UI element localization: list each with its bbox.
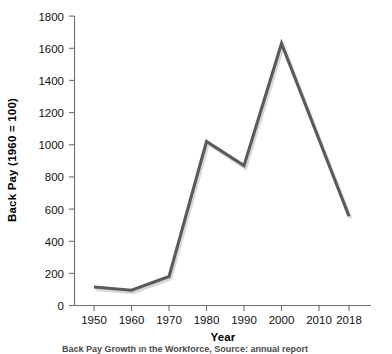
y-tick-label: 1200 [38,107,64,119]
x-tick-label: 1990 [231,314,257,326]
x-tick-label: 2000 [269,314,295,326]
series-line-shadow [96,46,351,293]
y-tick-label: 800 [45,171,64,183]
y-axis-ticks [69,16,75,305]
figure-caption-clipped: Back Pay Growth in the Workforce, Source… [0,346,392,354]
series-line-back-pay [94,43,349,290]
x-axis-ticks [94,306,349,312]
y-tick-label: 1600 [38,43,64,55]
x-axis-tick-labels: 1950 1960 1970 1980 1990 2000 2010 2018 [81,314,362,326]
x-axis-title: Year [210,331,235,343]
y-tick-label: 400 [45,236,64,248]
x-tick-label: 2018 [336,314,362,326]
x-tick-label: 1970 [156,314,182,326]
y-tick-label: 600 [45,204,64,216]
y-tick-label: 1400 [38,75,64,87]
x-tick-label: 1980 [194,314,220,326]
figure-caption-text: Back Pay Growth in the Workforce, Source… [62,346,308,354]
y-tick-label: 200 [45,268,64,280]
y-axis-tick-labels: 1800 1600 1400 1200 1000 800 600 400 200… [38,11,64,313]
x-tick-label: 1950 [81,314,107,326]
x-tick-label: 2010 [306,314,332,326]
y-tick-label: 1800 [38,11,64,23]
y-tick-label: 0 [58,300,64,312]
chart-plot-area: 1800 1600 1400 1200 1000 800 600 400 200… [0,0,392,354]
y-axis-title: Back Pay (1960 = 100) [6,98,18,222]
line-chart-figure: 1800 1600 1400 1200 1000 800 600 400 200… [0,0,392,354]
y-tick-label: 1000 [38,139,64,151]
x-tick-label: 1960 [119,314,145,326]
